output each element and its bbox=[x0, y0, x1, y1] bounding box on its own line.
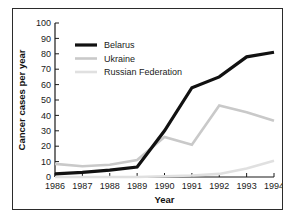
legend-label-russian-federation: Russian Federation bbox=[104, 67, 182, 77]
y-tick-label: 20 bbox=[41, 141, 51, 151]
x-axis-title: Year bbox=[154, 194, 174, 205]
y-tick-label: 30 bbox=[41, 126, 51, 136]
figure-frame: 0102030405060708090100198619871988198919… bbox=[12, 8, 283, 210]
x-tick-label: 1986 bbox=[45, 181, 65, 191]
chart-canvas: 0102030405060708090100198619871988198919… bbox=[13, 9, 282, 209]
x-tick-label: 1990 bbox=[154, 181, 174, 191]
x-tick-label: 1988 bbox=[100, 181, 120, 191]
legend-label-belarus: Belarus bbox=[104, 40, 135, 50]
line-chart: 0102030405060708090100198619871988198919… bbox=[13, 9, 282, 209]
y-tick-label: 50 bbox=[41, 95, 51, 105]
legend-label-ukraine: Ukraine bbox=[104, 54, 135, 64]
x-tick-label: 1992 bbox=[209, 181, 229, 191]
y-tick-label: 40 bbox=[41, 111, 51, 121]
y-tick-label: 10 bbox=[41, 157, 51, 167]
x-tick-label: 1991 bbox=[182, 181, 202, 191]
x-tick-label: 1987 bbox=[72, 181, 92, 191]
x-tick-label: 1989 bbox=[127, 181, 147, 191]
y-tick-label: 70 bbox=[41, 64, 51, 74]
y-tick-label: 80 bbox=[41, 49, 51, 59]
y-tick-label: 90 bbox=[41, 34, 51, 44]
x-tick-label: 1994 bbox=[264, 181, 282, 191]
y-axis-title: Cancer cases per year bbox=[16, 49, 27, 150]
y-tick-label: 100 bbox=[36, 18, 51, 28]
x-tick-label: 1993 bbox=[237, 181, 257, 191]
y-tick-label: 60 bbox=[41, 80, 51, 90]
series-line-ukraine bbox=[55, 105, 274, 166]
